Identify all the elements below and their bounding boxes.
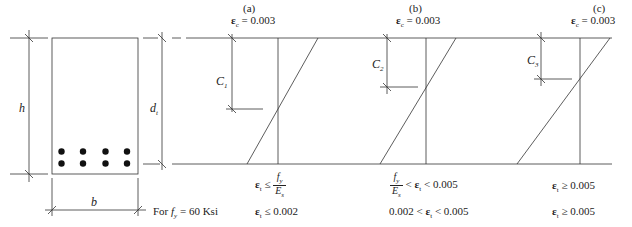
subscript: t bbox=[557, 186, 559, 194]
c-subscript: 1 bbox=[224, 82, 228, 90]
subscript: t bbox=[419, 185, 421, 193]
width-label: b bbox=[91, 196, 97, 208]
condition-bound: ≤ 0.002 bbox=[264, 205, 298, 217]
case-b-label: (b) bbox=[409, 3, 422, 14]
condition-bound: ≥ 0.005 bbox=[561, 179, 595, 191]
strain-value: = 0.003 bbox=[407, 14, 441, 26]
case-c-condition-60ksi: εt ≥ 0.005 bbox=[552, 206, 595, 220]
c-symbol: C bbox=[216, 74, 224, 88]
c3-label: C3 bbox=[527, 54, 539, 69]
c-symbol: C bbox=[527, 53, 535, 67]
c2-label: C2 bbox=[372, 58, 384, 73]
subscript: t bbox=[430, 212, 432, 220]
subscript: s bbox=[281, 191, 284, 199]
fy-over-es-fraction: fyEs bbox=[273, 172, 286, 199]
strain-distribution-figure: h b dt (a) εc = 0.003 (b) εc = 0.003 (c)… bbox=[0, 0, 632, 227]
prefix: For bbox=[153, 205, 171, 217]
subscript: s bbox=[398, 191, 401, 199]
strain-line-a bbox=[247, 38, 318, 164]
fy-row-label: For fy = 60 Ksi bbox=[153, 206, 218, 220]
subscript: t bbox=[557, 212, 559, 220]
subscript: t bbox=[260, 185, 262, 193]
case-a-condition-60ksi: εt ≤ 0.002 bbox=[255, 206, 298, 220]
strain-value: = 0.003 bbox=[582, 14, 616, 26]
subscript: y bbox=[396, 177, 399, 185]
operator: < bbox=[406, 178, 412, 190]
rebar-group bbox=[58, 148, 130, 166]
figure-drawing bbox=[0, 0, 632, 227]
case-c-top-strain: εc = 0.003 bbox=[571, 15, 615, 29]
depth-subscript: t bbox=[156, 109, 158, 117]
c1-label: C1 bbox=[216, 75, 228, 90]
subscript: c bbox=[576, 21, 579, 29]
height-label: h bbox=[19, 102, 25, 114]
subscript: c bbox=[401, 21, 404, 29]
condition-bound: < 0.005 bbox=[424, 178, 458, 190]
case-b-top-strain: εc = 0.003 bbox=[396, 15, 440, 29]
operator: ≤ bbox=[264, 178, 270, 190]
depth-label: dt bbox=[150, 102, 158, 117]
strain-value: = 0.003 bbox=[242, 14, 276, 26]
case-c-label: (c) bbox=[593, 3, 605, 14]
case-c-condition-general: εt ≥ 0.005 bbox=[552, 180, 595, 194]
case-b-condition-general: fyEs < εt < 0.005 bbox=[390, 172, 458, 199]
condition-lower: 0.002 < bbox=[389, 205, 423, 217]
subscript: t bbox=[260, 212, 262, 220]
c-subscript: 2 bbox=[380, 65, 384, 73]
subscript: c bbox=[236, 21, 239, 29]
c-subscript: 3 bbox=[535, 61, 539, 69]
condition-upper: < 0.005 bbox=[435, 205, 469, 217]
c-symbol: C bbox=[372, 57, 380, 71]
case-a-top-strain: εc = 0.003 bbox=[231, 15, 275, 29]
subscript: y bbox=[279, 177, 282, 185]
strain-line-b bbox=[380, 38, 456, 164]
case-b-condition-60ksi: 0.002 < εt < 0.005 bbox=[389, 206, 469, 220]
condition-bound: ≥ 0.005 bbox=[561, 205, 595, 217]
case-a-label: (a) bbox=[243, 3, 255, 14]
fy-over-es-fraction: fyEs bbox=[390, 172, 403, 199]
fy-value: = 60 Ksi bbox=[177, 205, 218, 217]
case-a-condition-general: εt ≤ fyEs bbox=[255, 172, 286, 199]
